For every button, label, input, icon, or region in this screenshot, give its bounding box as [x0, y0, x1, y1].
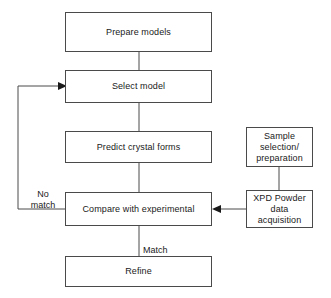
node-compare-with-experimental[interactable]: Compare with experimental — [65, 192, 212, 226]
flowchart-canvas: Prepare models Select model Predict crys… — [0, 0, 331, 298]
arrowhead-xpd-to-compare — [212, 205, 221, 213]
node-sample-selection-preparation[interactable]: Sample selection/ preparation — [246, 127, 313, 167]
node-select-model-label: Select model — [110, 81, 167, 92]
edge-label-match-text: Match — [143, 245, 168, 255]
edge-label-no-match: No match — [22, 178, 64, 211]
edge-label-match: Match — [143, 234, 185, 256]
node-sample-selection-preparation-label: Sample selection/ preparation — [254, 131, 305, 164]
node-predict-crystal-forms-label: Predict crystal forms — [95, 142, 183, 153]
node-select-model[interactable]: Select model — [65, 70, 212, 103]
node-xpd-powder-data-acquisition-label: XPD Powder data acquisition — [251, 193, 308, 226]
node-compare-with-experimental-label: Compare with experimental — [80, 204, 196, 215]
node-prepare-models-label: Prepare models — [104, 27, 173, 38]
node-refine-label: Refine — [123, 266, 154, 277]
node-xpd-powder-data-acquisition[interactable]: XPD Powder data acquisition — [246, 190, 313, 228]
node-predict-crystal-forms[interactable]: Predict crystal forms — [65, 131, 212, 163]
edge-label-no-match-text: No match — [31, 189, 56, 210]
node-prepare-models[interactable]: Prepare models — [65, 12, 212, 52]
node-refine[interactable]: Refine — [65, 256, 212, 287]
